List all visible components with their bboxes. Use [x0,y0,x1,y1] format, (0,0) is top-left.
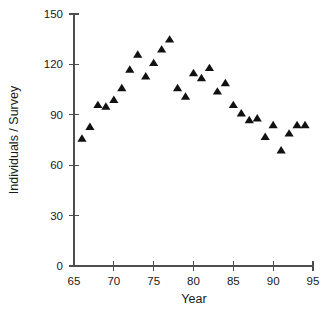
data-point [93,101,102,108]
y-tick-label: 90 [50,109,63,121]
y-tick-label: 120 [44,58,63,70]
data-point [213,87,222,94]
data-point [109,96,118,103]
data-point [292,121,301,128]
x-tick-group: 65707580859095 [68,261,320,287]
data-point [261,133,270,140]
data-point [101,102,110,109]
chart-figure: 0306090120150 65707580859095 Year Indivi… [0,0,334,318]
data-point [253,114,262,121]
data-point [277,146,286,153]
x-tick-label: 80 [187,275,200,287]
x-axis-title: Year [181,292,206,306]
data-point [285,129,294,136]
data-point [133,50,142,57]
x-tick-label: 90 [267,275,280,287]
data-point [237,109,246,116]
x-tick-label: 85 [227,275,240,287]
y-tick-label: 150 [44,8,63,20]
x-tick-label: 70 [107,275,120,287]
y-axis-title: Individuals / Survey [7,85,21,194]
x-tick-label: 95 [307,275,320,287]
x-axis: 65707580859095 [68,261,320,287]
data-point [221,79,230,86]
data-point [125,65,134,72]
data-point [197,74,206,81]
data-point [173,84,182,91]
scatter-plot: 0306090120150 65707580859095 Year Indivi… [0,0,334,318]
data-point [141,72,150,79]
data-point [189,69,198,76]
data-point [205,64,214,71]
data-point [157,45,166,52]
x-tick-label: 65 [68,275,81,287]
y-tick-label: 60 [50,159,63,171]
data-point-group [77,35,309,153]
data-point [229,101,238,108]
data-point [300,121,309,128]
data-point [245,116,254,123]
data-point [165,35,174,42]
y-axis: 0306090120150 [44,8,79,272]
data-point [85,122,94,129]
data-point [269,121,278,128]
data-point [117,84,126,91]
data-point [77,134,86,141]
data-point [181,92,190,99]
x-tick-label: 75 [147,275,160,287]
y-tick-label: 0 [57,260,63,272]
y-tick-label: 30 [50,210,63,222]
data-point [149,59,158,66]
